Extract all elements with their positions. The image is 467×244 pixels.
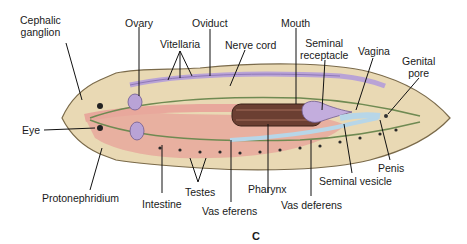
label-cephalic-ganglion-line1: Cephalic [20, 14, 61, 26]
label-pharynx: Pharynx [248, 183, 287, 195]
label-testes: Testes [185, 186, 215, 198]
label-genital-pore-line1: Genital [402, 55, 435, 67]
label-cephalic-ganglion: Cephalic ganglion [20, 14, 61, 38]
label-ovary: Ovary [125, 17, 153, 29]
figure-panel-letter: C [252, 230, 260, 242]
label-genital-pore-line2: pore [402, 67, 435, 79]
label-seminal-vesicle: Seminal vesicle [319, 175, 392, 187]
label-mouth: Mouth [281, 17, 310, 29]
label-eye: Eye [22, 124, 40, 136]
label-nerve-cord: Nerve cord [225, 39, 276, 51]
label-genital-pore: Genital pore [402, 55, 435, 79]
label-cephalic-ganglion-line2: ganglion [20, 26, 61, 38]
label-vas-eferens: Vas eferens [202, 205, 257, 217]
label-penis: Penis [378, 162, 404, 174]
label-intestine: Intestine [142, 198, 182, 210]
label-oviduct: Oviduct [192, 17, 228, 29]
label-vas-deferens: Vas deferens [281, 199, 342, 211]
label-vagina: Vagina [358, 45, 390, 57]
label-seminal-receptacle-line1: Seminal [300, 37, 348, 49]
label-vitellaria: Vitellaria [160, 38, 200, 50]
planarian-diagram: Cephalic ganglion Ovary Vitellaria Ovidu… [0, 0, 467, 244]
label-seminal-receptacle: Seminal receptacle [300, 37, 348, 61]
label-seminal-receptacle-line2: receptacle [300, 49, 348, 61]
label-protonephridium: Protonephridium [42, 192, 119, 204]
